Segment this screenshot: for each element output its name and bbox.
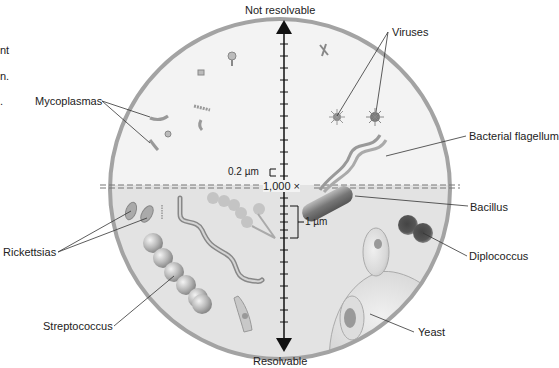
resolvable-label: Resolvable [253,355,307,367]
upper-half [100,15,460,185]
not-resolvable-label: Not resolvable [245,4,315,16]
cropped-text-3: . [0,95,3,107]
cropped-text-2: n. [0,70,9,82]
bacillus-label: Bacillus [470,201,508,213]
viruses-label: Viruses [392,26,428,38]
cropped-text-1: nt [0,44,9,56]
mycoplasmas-label: Mycoplasmas [35,95,102,107]
scale-large-label: 1 µm [305,216,327,228]
streptococcus-label: Streptococcus [43,320,113,332]
magnification-label: 1,000 × [263,180,300,192]
rickettsias-label: Rickettsias [3,246,56,258]
diplococcus-label: Diplococcus [469,250,528,262]
bacterial-flagellum-label: Bacterial flagellum [469,130,559,142]
scale-small-label: 0.2 µm [228,166,259,178]
yeast-label: Yeast [418,326,445,338]
